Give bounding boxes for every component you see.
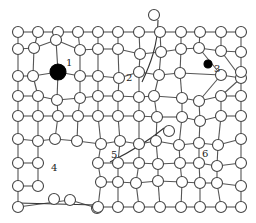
lattice-atom <box>236 91 247 102</box>
lattice-atom <box>96 177 107 188</box>
lattice-atom <box>236 47 247 58</box>
large-impurity-atom <box>50 64 66 80</box>
lattice-atom <box>175 68 186 79</box>
small-impurity-atom <box>204 60 212 68</box>
lattice-atom <box>13 27 24 38</box>
lattice-atom <box>176 27 187 38</box>
lattice-atom <box>13 134 24 145</box>
lattice-atom <box>33 136 44 147</box>
lattice-atom <box>33 27 44 38</box>
lattice-atom <box>52 95 63 106</box>
lattice-atom <box>236 202 247 213</box>
lattice-atom <box>151 136 162 147</box>
lattice-atom <box>75 45 86 56</box>
lattice-atom <box>13 181 24 192</box>
lattice-atom <box>213 140 224 151</box>
lattice-atom <box>33 181 44 192</box>
bonds-layer <box>18 32 241 208</box>
lattice-atom <box>93 158 104 169</box>
lattice-atom <box>236 111 247 122</box>
lattice-atom <box>113 27 124 38</box>
lattice-atom <box>134 92 145 103</box>
lattice-atom <box>73 111 84 122</box>
lattice-atom <box>177 93 188 104</box>
lattice-atom <box>13 111 24 122</box>
lattice-atom <box>216 27 227 38</box>
lattice-atom <box>96 139 107 150</box>
lattice-atom <box>134 202 145 213</box>
interstitial-atom-top <box>149 10 160 21</box>
lattice-atom <box>93 111 104 122</box>
lattice-atom <box>93 27 104 38</box>
lattice-atom <box>216 91 227 102</box>
lattice-atom <box>93 71 104 82</box>
bottom-interstitial-atom <box>49 194 60 205</box>
label-2: 2 <box>126 72 132 83</box>
lattice-atom <box>33 158 44 169</box>
lattice-atom <box>51 35 62 46</box>
lattice-atom <box>53 111 64 122</box>
lattice-atom <box>194 158 205 169</box>
lattice-atom <box>134 27 145 38</box>
lattice-atom <box>216 111 227 122</box>
lattice-atom <box>195 178 206 189</box>
lattice-atom <box>155 202 166 213</box>
label-1: 1 <box>66 57 72 68</box>
lattice-atom <box>149 91 160 102</box>
lattice-atom <box>29 43 40 54</box>
lattice-atom <box>113 44 124 55</box>
lattice-atom <box>13 158 24 169</box>
lattice-atom <box>236 67 247 78</box>
lattice-atom <box>155 27 166 38</box>
lattice-defect-diagram: 1 2 3 4 5 6 <box>0 0 256 223</box>
lattice-atom <box>65 195 76 206</box>
lattice-atom <box>175 158 186 169</box>
lattice-atom <box>113 111 124 122</box>
atoms-layer <box>13 27 247 214</box>
lattice-atom <box>153 159 164 170</box>
label-4: 4 <box>51 162 57 173</box>
lattice-atom <box>176 202 187 213</box>
lattice-atom <box>154 70 165 81</box>
lattice-atom <box>152 112 163 123</box>
lattice-atom <box>134 67 145 78</box>
lattice-atom <box>75 71 86 82</box>
lattice-atom <box>236 158 247 169</box>
lattice-atom <box>113 91 124 102</box>
lattice-atom <box>195 27 206 38</box>
label-6: 6 <box>202 148 208 159</box>
lattice-atom <box>28 71 39 82</box>
lattice-atom <box>236 181 247 192</box>
lattice-atom <box>156 47 167 58</box>
lattice-atom <box>134 111 145 122</box>
lattice-atom <box>195 202 206 213</box>
lattice-atom <box>174 140 185 151</box>
lattice-atom <box>131 178 142 189</box>
lattice-atom <box>153 176 164 187</box>
lattice-atom <box>177 112 188 123</box>
lattice-atom <box>93 44 104 55</box>
lattice-atom <box>212 178 223 189</box>
lattice-atom <box>93 202 104 213</box>
lattice-atom <box>115 136 126 147</box>
lattice-atom <box>72 136 83 147</box>
label-5: 5 <box>111 149 117 160</box>
lattice-atom <box>113 202 124 213</box>
lattice-atom <box>216 202 227 213</box>
lattice-atom <box>177 177 188 188</box>
lattice-atom <box>216 46 227 57</box>
lattice-atom <box>33 91 44 102</box>
lattice-atom <box>194 43 205 54</box>
lattice-atom <box>134 158 145 169</box>
lattice-atom <box>114 73 125 84</box>
lattice-atom <box>194 96 205 107</box>
lattice-atom <box>195 116 206 127</box>
lattice-atom <box>75 93 86 104</box>
lattice-atom <box>176 44 187 55</box>
lattice-atom <box>73 27 84 38</box>
lattice-atom <box>135 49 146 60</box>
lattice-atom <box>194 138 205 149</box>
lattice-atom <box>93 91 104 102</box>
lattice-atom <box>236 134 247 145</box>
lattice-atom <box>13 91 24 102</box>
